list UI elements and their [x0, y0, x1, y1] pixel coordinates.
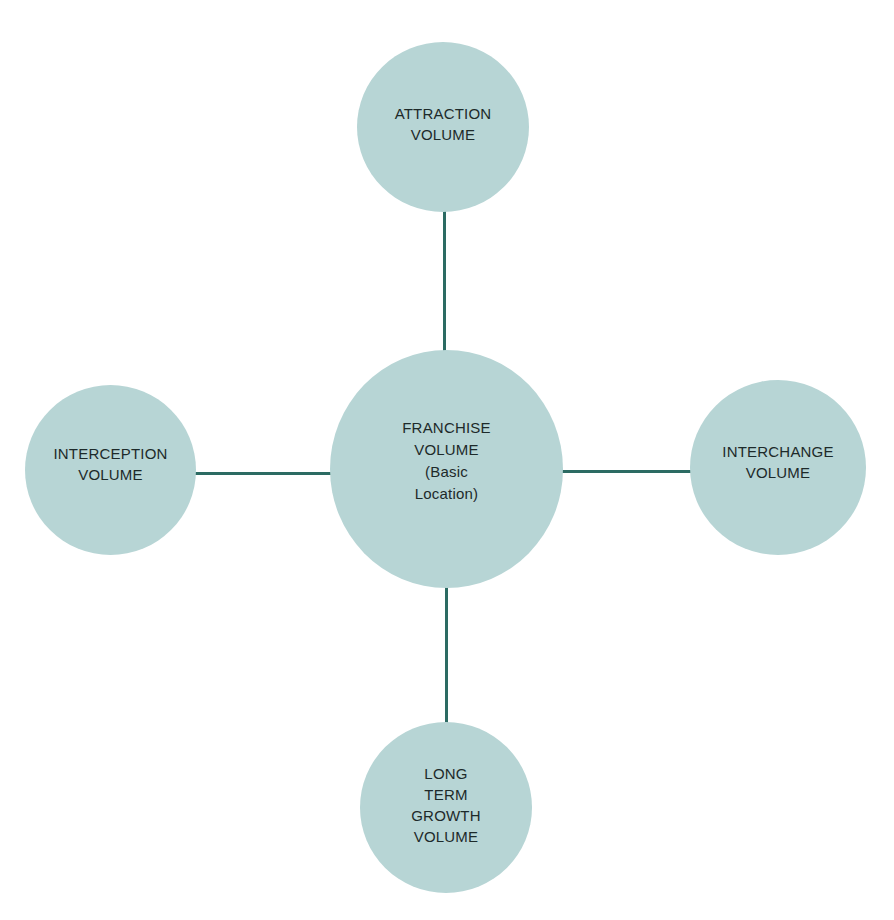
node-label: INTERCHANGE VOLUME [722, 441, 833, 483]
volume-diagram: ATTRACTION VOLUME FRANCHISE VOLUME (Basi… [0, 0, 894, 920]
node-interchange-volume: INTERCHANGE VOLUME [690, 380, 866, 555]
node-long-term-growth-volume: LONG TERM GROWTH VOLUME [360, 722, 532, 893]
node-franchise-volume: FRANCHISE VOLUME (Basic Location) [330, 350, 563, 588]
connector-top [443, 210, 446, 352]
connector-left [194, 472, 332, 475]
node-label: ATTRACTION VOLUME [395, 103, 492, 145]
connector-right [560, 470, 693, 473]
node-attraction-volume: ATTRACTION VOLUME [357, 42, 529, 212]
connector-bottom [445, 586, 448, 724]
node-label: LONG TERM GROWTH VOLUME [411, 763, 481, 847]
node-interception-volume: INTERCEPTION VOLUME [25, 385, 196, 555]
node-label: INTERCEPTION VOLUME [53, 443, 167, 485]
node-label: FRANCHISE VOLUME (Basic Location) [402, 417, 490, 505]
